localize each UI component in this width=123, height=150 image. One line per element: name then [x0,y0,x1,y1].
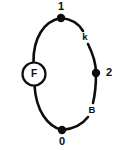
node-1-dot [57,14,65,22]
node-0-dot [58,126,66,134]
node-1-label: 1 [58,0,64,12]
diagram-canvas: F 1 2 0 k B [0,0,123,150]
edge-label-k: k [82,31,88,42]
arc-bottom-right-lower [62,117,88,130]
arc-bottom-left [35,86,63,131]
arc-top-right-lower [88,44,96,73]
node-2-label: 2 [106,66,112,78]
node-2-dot [92,69,100,77]
node-0: 0 [58,126,66,147]
component-f: F [23,63,46,86]
circuit-diagram: F 1 2 0 k B [0,0,123,150]
node-1: 1 [57,0,65,22]
arc-top-left [33,18,61,63]
arc-bottom-right-upper [93,73,96,103]
node-0-label: 0 [59,135,65,147]
component-f-label: F [31,68,37,79]
edge-label-b: B [89,104,96,115]
